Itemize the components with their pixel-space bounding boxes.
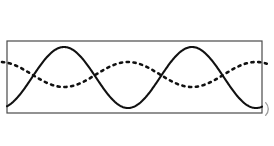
figure-root (0, 0, 274, 146)
wave-diagram (0, 0, 274, 146)
right-edge-arc-icon (266, 103, 269, 116)
